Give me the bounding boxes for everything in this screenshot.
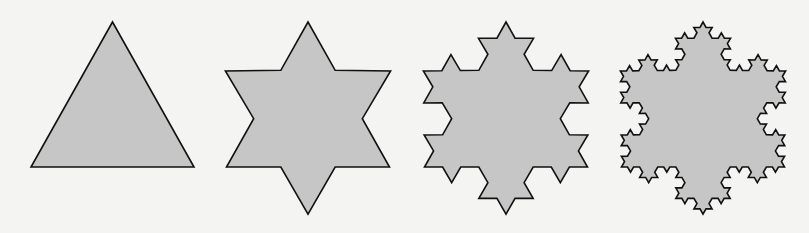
koch-iteration-1: [225, 22, 390, 214]
koch-iteration-3: [620, 22, 785, 214]
koch-snowflake-figure: [0, 0, 809, 233]
koch-iteration-2: [423, 22, 588, 214]
koch-iteration-0: [31, 22, 194, 167]
shape-group: [31, 22, 786, 214]
